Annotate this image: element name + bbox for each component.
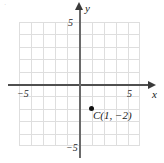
x-axis-name-label: x (152, 89, 157, 100)
x-axis-tick-label-positive-5: 5 (127, 89, 132, 99)
y-axis-line (79, 9, 81, 158)
y-axis-name-label: y (85, 3, 90, 14)
y-axis-tick-label-negative-5: −5 (66, 143, 78, 153)
y-axis-arrowhead-icon (75, 2, 83, 10)
y-axis-tick-label-positive-5: 5 (68, 18, 73, 28)
scan-artifact-mark: · (4, 3, 8, 7)
plotted-point-c-label: C(1, −2) (93, 110, 132, 121)
x-axis-tick-label-negative-5: −5 (17, 89, 29, 99)
coordinate-plane-figure: · −5 5 5 −5 x y C(1, −2) (0, 0, 164, 163)
